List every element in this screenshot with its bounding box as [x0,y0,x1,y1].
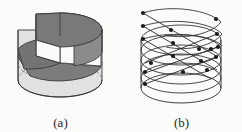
helix-arc-upper-2 [143,21,222,34]
sample-point [171,41,175,45]
sample-point [141,24,145,28]
sample-point [171,54,175,58]
sample-point [216,45,220,49]
sample-point [214,55,218,59]
sample-point [214,17,218,21]
figure-panel-b: (b) [121,0,242,132]
sample-point [143,82,147,86]
figure-plate: (a) [0,0,242,132]
sample-point [215,32,219,36]
sample-point [197,47,201,51]
sample-point [209,47,213,51]
sample-point [143,70,147,74]
chord-segment [143,13,218,57]
figure-panel-a: (a) [0,0,121,132]
sample-point [141,11,145,15]
sample-point [141,37,145,41]
sample-point [149,61,153,65]
sample-point [205,68,209,72]
cylinder-helicoid-diagram [0,0,121,110]
level-curve [141,54,221,84]
sample-point [199,59,203,63]
cylinder-helix-points-diagram [121,0,242,110]
sample-point [169,28,173,32]
panel-b-caption: (b) [121,116,242,130]
sample-point [181,70,185,74]
panel-a-caption: (a) [0,116,121,130]
